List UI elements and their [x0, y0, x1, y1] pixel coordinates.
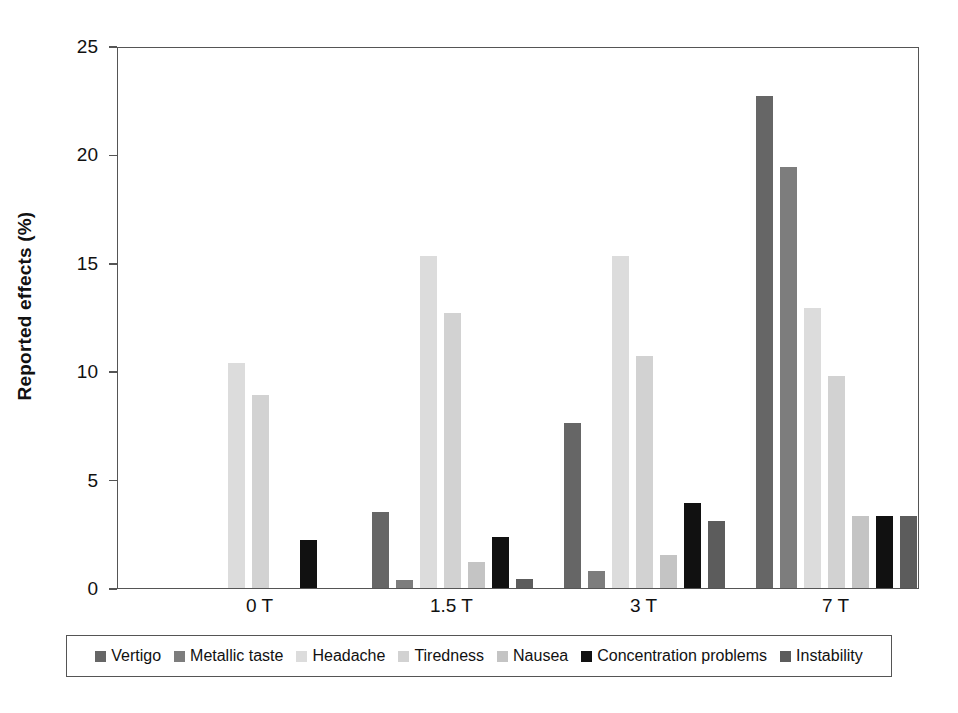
bar-metallic-taste-7T — [780, 167, 797, 588]
y-axis-tick-label: 10 — [52, 362, 98, 381]
legend-label: Concentration problems — [597, 648, 767, 664]
bar-concentration-problems-1.5T — [492, 537, 509, 588]
legend-item-instability[interactable]: Instability — [780, 648, 863, 664]
bar-tiredness-7T — [828, 376, 845, 588]
bar-headache-0T — [228, 363, 245, 588]
bar-nausea-1.5T — [468, 562, 485, 588]
legend-swatch-icon — [296, 651, 307, 662]
legend-item-tiredness[interactable]: Tiredness — [398, 648, 484, 664]
y-axis-tick-group: 0510152025 — [0, 0, 117, 713]
legend-swatch-icon — [780, 651, 791, 662]
bar-vertigo-1.5T — [372, 512, 389, 588]
y-axis-tick-label: 15 — [52, 254, 98, 273]
legend-item-nausea[interactable]: Nausea — [497, 648, 568, 664]
legend-entries: VertigoMetallic tasteHeadacheTirednessNa… — [95, 648, 863, 664]
y-axis-tick-mark — [109, 371, 117, 373]
legend-swatch-icon — [174, 651, 185, 662]
bar-vertigo-3T — [564, 423, 581, 588]
bar-instability-1.5T — [516, 579, 533, 588]
legend-swatch-icon — [95, 651, 106, 662]
legend-swatch-icon — [497, 651, 508, 662]
legend-label: Nausea — [513, 648, 568, 664]
bar-headache-3T — [612, 256, 629, 588]
y-axis-tick-label: 0 — [52, 579, 98, 598]
x-axis-tick-label-1.5T: 1.5 T — [392, 596, 512, 615]
x-axis-tick-label-7T: 7 T — [776, 596, 896, 615]
x-axis-tick-label-3T: 3 T — [584, 596, 704, 615]
bar-tiredness-1.5T — [444, 313, 461, 588]
y-axis-tick-label: 25 — [52, 37, 98, 56]
y-axis-tick-label: 5 — [52, 471, 98, 490]
bars-layer — [118, 48, 918, 588]
y-axis-tick-label: 20 — [52, 145, 98, 164]
plot-area — [117, 47, 919, 589]
legend-item-vertigo[interactable]: Vertigo — [95, 648, 161, 664]
legend-label: Instability — [796, 648, 863, 664]
legend-swatch-icon — [398, 651, 409, 662]
bar-tiredness-3T — [636, 356, 653, 588]
legend-label: Metallic taste — [190, 648, 283, 664]
bar-headache-1.5T — [420, 256, 437, 588]
x-axis-tick-label-0T: 0 T — [200, 596, 320, 615]
bar-concentration-problems-7T — [876, 516, 893, 588]
y-axis-tick-mark — [109, 155, 117, 157]
y-axis-tick-mark — [109, 588, 117, 590]
bar-concentration-problems-0T — [300, 540, 317, 588]
bar-concentration-problems-3T — [684, 503, 701, 588]
legend-swatch-icon — [581, 651, 592, 662]
legend-label: Headache — [312, 648, 385, 664]
bar-metallic-taste-1.5T — [396, 580, 413, 588]
bar-nausea-7T — [852, 516, 869, 588]
legend-item-headache[interactable]: Headache — [296, 648, 385, 664]
bar-instability-3T — [708, 521, 725, 588]
bar-vertigo-7T — [756, 96, 773, 588]
bar-headache-7T — [804, 308, 821, 588]
bar-instability-7T — [900, 516, 917, 588]
legend-item-concentration-problems[interactable]: Concentration problems — [581, 648, 767, 664]
bar-metallic-taste-3T — [588, 571, 605, 588]
legend-label: Tiredness — [414, 648, 484, 664]
legend-label: Vertigo — [111, 648, 161, 664]
y-axis-tick-mark — [109, 263, 117, 265]
bar-nausea-3T — [660, 555, 677, 588]
chart-figure: Reported effects (%) 0510152025 0 T1.5 T… — [0, 0, 958, 713]
legend-item-metallic-taste[interactable]: Metallic taste — [174, 648, 283, 664]
chart-legend: VertigoMetallic tasteHeadacheTirednessNa… — [66, 635, 892, 677]
y-axis-tick-mark — [109, 46, 117, 48]
bar-tiredness-0T — [252, 395, 269, 588]
y-axis-tick-mark — [109, 480, 117, 482]
